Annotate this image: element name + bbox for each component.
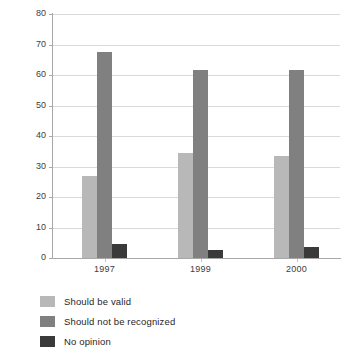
bar-1997-series-2 — [112, 244, 127, 258]
bar-1997-series-0 — [82, 176, 97, 258]
bar-1999-series-1 — [193, 70, 208, 258]
bar-2000-series-2 — [304, 247, 319, 258]
y-axis-tick-label: 60 — [20, 69, 46, 79]
y-axis-tick-label: 40 — [20, 130, 46, 140]
legend-label-2: No opinion — [64, 336, 111, 347]
x-axis-tick-mark — [105, 259, 106, 262]
bar-2000-series-1 — [289, 70, 304, 258]
x-axis-tick-mark — [201, 259, 202, 262]
legend-swatch-not-recognized — [40, 316, 55, 327]
chart-page: 01020304050607080 Percentage 19971999200… — [0, 0, 355, 355]
x-axis-tick-label-2000: 2000 — [273, 264, 321, 274]
y-axis-tick-label: 20 — [20, 191, 46, 201]
x-axis-tick-mark — [297, 259, 298, 262]
legend-item-0[interactable]: Should be valid — [40, 291, 175, 311]
bar-1997-series-1 — [97, 52, 112, 258]
legend-item-2[interactable]: No opinion — [40, 331, 175, 351]
bar-1999-series-0 — [178, 153, 193, 258]
y-axis-tick-label: 70 — [20, 39, 46, 49]
legend-swatch-no-opinion — [40, 336, 55, 347]
legend-label-0: Should be valid — [64, 296, 131, 307]
y-axis-tick-label: 0 — [20, 252, 46, 262]
x-axis-tick-label-1997: 1997 — [81, 264, 129, 274]
legend-label-1: Should not be recognized — [64, 316, 175, 327]
legend-swatch-valid — [40, 296, 55, 307]
x-axis-tick-label-1999: 1999 — [177, 264, 225, 274]
y-axis-tick-label: 80 — [20, 8, 46, 18]
y-axis-tick-label: 50 — [20, 100, 46, 110]
y-axis-tick-label: 10 — [20, 222, 46, 232]
bar-2000-series-0 — [274, 156, 289, 258]
legend-item-1[interactable]: Should not be recognized — [40, 311, 175, 331]
chart-legend: Should be validShould not be recognizedN… — [40, 291, 175, 351]
plot-area — [52, 14, 340, 258]
y-axis-tick-label: 30 — [20, 161, 46, 171]
bar-1999-series-2 — [208, 250, 223, 258]
